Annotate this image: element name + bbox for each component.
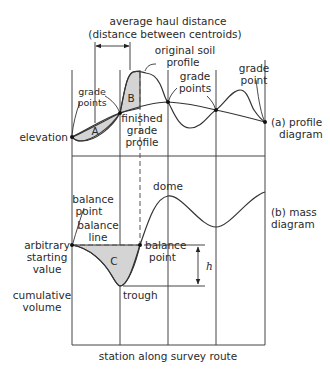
grade-point-4 bbox=[214, 108, 218, 112]
finished-grade-label-1: finished bbox=[121, 112, 162, 124]
x-axis-label: station along survey route bbox=[99, 350, 237, 362]
balance-line-label-2: line bbox=[89, 231, 108, 243]
grade-point-end-label-2: point bbox=[241, 74, 268, 86]
dome-label: dome bbox=[153, 180, 183, 192]
mass-caption-1: (b) mass bbox=[271, 206, 317, 218]
h-label: h bbox=[206, 260, 213, 272]
balance-point-left-label-1: balance bbox=[72, 193, 113, 205]
arbitrary-start-label-1: arbitrary bbox=[24, 239, 70, 251]
finished-grade-label-3: profile bbox=[125, 136, 158, 148]
balance-point-right-label-1: balance bbox=[145, 239, 186, 251]
leader-original-soil bbox=[145, 64, 156, 71]
profile-caption-1: (a) profile bbox=[271, 116, 322, 128]
leader-grade-right-b bbox=[207, 96, 215, 108]
original-soil-label-1: original soil bbox=[155, 44, 215, 56]
arbitrary-start-label-2: starting bbox=[27, 251, 68, 263]
grade-points-right-label-2: points bbox=[179, 82, 211, 94]
balance-point-right-label-2: point bbox=[149, 251, 176, 263]
original-soil-label-2: profile bbox=[166, 56, 199, 68]
finished-grade-label-2: grade bbox=[127, 124, 158, 136]
balance-point-start bbox=[70, 243, 74, 247]
grade-point-end-label-1: grade bbox=[239, 62, 270, 74]
grade-point-1 bbox=[70, 135, 74, 139]
trough-label: trough bbox=[123, 289, 158, 301]
cumulative-volume-label-2: volume bbox=[23, 301, 62, 313]
leader-grade-left-b bbox=[105, 96, 119, 111]
area-c-label: C bbox=[110, 255, 117, 267]
profile-caption-2: diagram bbox=[279, 128, 323, 140]
grade-point-5 bbox=[263, 120, 267, 124]
leader-grade-right-a bbox=[169, 88, 177, 100]
haul-title-line2: (distance between centroids) bbox=[88, 28, 241, 40]
cumulative-volume-label-1: cumulative bbox=[13, 289, 71, 301]
arbitrary-start-label-3: value bbox=[33, 263, 62, 275]
balance-point-end bbox=[138, 243, 142, 247]
grade-point-3 bbox=[166, 100, 170, 104]
grade-points-left-label-1: grade bbox=[78, 86, 106, 97]
area-b-label: B bbox=[127, 92, 134, 104]
grade-points-left-label-2: points bbox=[77, 97, 106, 108]
balance-point-left-label-2: point bbox=[76, 205, 103, 217]
elevation-label: elevation bbox=[19, 131, 68, 143]
haul-title-line1: average haul distance bbox=[110, 15, 227, 27]
grade-points-right-label-1: grade bbox=[180, 70, 211, 82]
area-c-fill bbox=[72, 245, 140, 286]
area-a-label: A bbox=[91, 125, 99, 137]
balance-line-label-1: balance bbox=[77, 219, 118, 231]
mass-caption-1b: diagram bbox=[271, 218, 315, 230]
earthwork-diagram: average haul distance (distance between … bbox=[0, 0, 330, 380]
